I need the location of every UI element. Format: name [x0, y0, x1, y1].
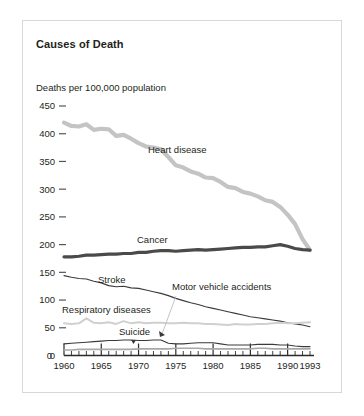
motor-vehicle-leader-line — [162, 296, 176, 334]
series-line-respiratory-diseases — [64, 318, 310, 325]
y-tick-label: 300 — [39, 184, 55, 195]
x-tick-label: 1990 — [277, 360, 298, 371]
y-tick-label-zero: 0 — [47, 350, 52, 361]
x-tick-label: 1980 — [203, 360, 224, 371]
y-tick-label: 200 — [39, 239, 55, 250]
y-axis-ticks: 050100150200250300350400450 — [39, 100, 66, 361]
line-chart-plot: 050100150200250300350400450 196019651970… — [0, 0, 364, 416]
y-tick-label: 250 — [39, 211, 55, 222]
y-tick-label: 100 — [39, 294, 55, 305]
x-tick-label: 1965 — [91, 360, 112, 371]
motor-vehicle-leader-arrowhead — [159, 331, 165, 337]
motor-vehicle-accidents-label: Motor vehicle accidents — [172, 281, 272, 292]
y-tick-label: 400 — [39, 128, 55, 139]
x-tick-label: 1985 — [240, 360, 261, 371]
x-tick-label: 1960 — [53, 360, 74, 371]
stroke-label: Stroke — [98, 274, 125, 285]
cancer-label: Cancer — [137, 234, 168, 245]
heart-disease-label: Heart disease — [148, 144, 207, 155]
x-tick-label: 1993 — [299, 360, 320, 371]
suicide-leader-arrowhead — [131, 340, 136, 344]
chart-figure: Causes of Death Deaths per 100,000 popul… — [0, 0, 364, 416]
series-annotations: Heart diseaseCancerStrokeMotor vehicle a… — [62, 144, 272, 337]
y-tick-label: 150 — [39, 267, 55, 278]
respiratory-diseases-label: Respiratory diseases — [62, 304, 151, 315]
series-line-cancer — [64, 245, 310, 257]
series-line-heart-disease — [64, 123, 310, 251]
x-tick-label: 1975 — [165, 360, 186, 371]
y-tick-label: 350 — [39, 156, 55, 167]
series-lines — [64, 123, 310, 350]
x-tick-label: 1970 — [128, 360, 149, 371]
suicide-label: Suicide — [119, 326, 150, 337]
y-tick-label: 50 — [44, 322, 55, 333]
y-tick-label: 450 — [39, 100, 55, 111]
